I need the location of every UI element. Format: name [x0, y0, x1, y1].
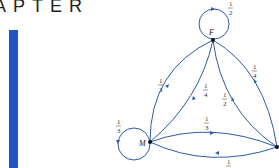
edge-R-M-lower — [150, 142, 277, 157]
svg-text:1: 1 — [223, 91, 227, 99]
svg-text:1: 1 — [227, 158, 231, 166]
svg-text:1: 1 — [205, 115, 209, 123]
arrow-icon — [165, 84, 169, 88]
weight-M-M: 1 3 — [116, 118, 121, 135]
weight-F-M-outer: 1 3 — [158, 77, 163, 94]
svg-text:3: 3 — [159, 86, 163, 94]
svg-text:1: 1 — [117, 118, 121, 126]
transition-diagram: F M 1 2 1 3 1 3 1 4 1 2 1 4 1 3 1 4 — [0, 0, 279, 168]
svg-text:3: 3 — [205, 124, 209, 132]
svg-text:1: 1 — [204, 82, 208, 90]
weight-M-R-upper: 1 3 — [204, 115, 209, 132]
node-F — [211, 38, 215, 42]
svg-text:3: 3 — [117, 127, 121, 135]
svg-text:1: 1 — [159, 77, 163, 85]
svg-text:2: 2 — [229, 9, 233, 17]
weight-F-M-inner: 1 4 — [203, 82, 208, 99]
node-label-M: M — [138, 139, 147, 148]
svg-text:4: 4 — [253, 72, 257, 80]
weight-R-M-lower: 1 4 — [226, 158, 231, 168]
arrow-icon — [116, 140, 120, 144]
edge-M-R-upper — [150, 132, 277, 147]
svg-text:1: 1 — [253, 63, 257, 71]
svg-text:4: 4 — [204, 91, 208, 99]
node-label-F: F — [208, 28, 214, 37]
weight-R-F-inner: 1 2 — [222, 91, 227, 108]
weight-F-R-outer: 1 4 — [252, 63, 257, 80]
arrow-icon — [192, 96, 196, 100]
arrow-icon — [211, 7, 215, 11]
weight-F-F: 1 2 — [228, 0, 233, 17]
node-M — [148, 140, 152, 144]
svg-text:1: 1 — [229, 0, 233, 8]
edge-F-F — [199, 9, 229, 39]
arrow-icon — [215, 151, 219, 155]
node-R — [275, 145, 279, 149]
arrow-icon — [210, 131, 214, 135]
svg-text:2: 2 — [223, 100, 227, 108]
